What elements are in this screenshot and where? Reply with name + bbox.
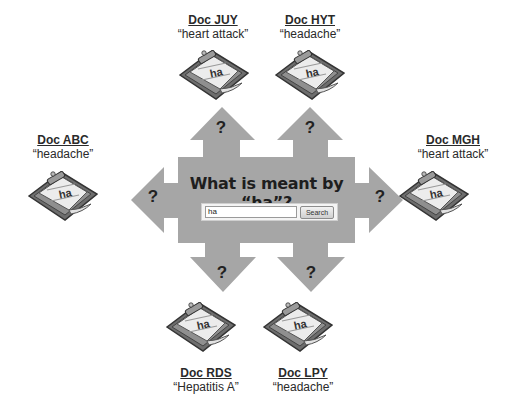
doc-name: Doc ABC [8,133,118,147]
doc-meaning: “headache” [8,147,118,161]
question-mark-up-right: ? [300,118,320,138]
document-hyt: Doc HYT “headache” [255,13,365,41]
search-bar: ha Search [201,203,338,221]
clipboard-icon [25,166,101,224]
doc-name: Doc RDS [151,366,261,380]
question-mark-up-left: ? [211,118,231,138]
clipboard-icon [176,45,252,103]
clipboard-icon [260,297,336,355]
clipboard-icon [163,297,239,355]
document-rds: Doc RDS “Hepatitis A” [151,366,261,394]
clipboard-icon [396,166,472,224]
document-lpy: Doc LPY “headache” [248,366,358,394]
doc-name: Doc JUY [158,13,268,27]
document-abc: Doc ABC “headache” [8,133,118,161]
doc-name: Doc MGH [398,133,508,147]
clipboard-icon [272,45,348,103]
document-juy: Doc JUY “heart attack” [158,13,268,41]
search-input[interactable]: ha [205,206,297,218]
doc-meaning: “headache” [255,27,365,41]
doc-meaning: “Hepatitis A” [151,380,261,394]
question-mark-right: ? [370,187,390,207]
doc-meaning: “headache” [248,380,358,394]
doc-name: Doc HYT [255,13,365,27]
search-button[interactable]: Search [300,206,334,219]
question-mark-left: ? [143,187,163,207]
question-mark-down-left: ? [212,263,232,283]
doc-meaning: “heart attack” [398,147,508,161]
question-mark-down-right: ? [301,263,321,283]
doc-name: Doc LPY [248,366,358,380]
doc-meaning: “heart attack” [158,27,268,41]
document-mgh: Doc MGH “heart attack” [398,133,508,161]
